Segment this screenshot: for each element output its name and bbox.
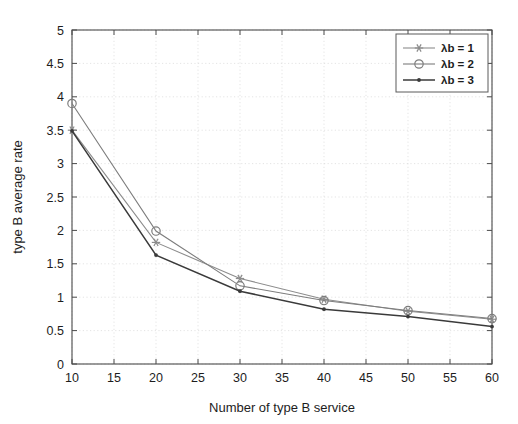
- y-tick-label: 1.5: [47, 257, 64, 271]
- y-tick-label: 1: [57, 291, 64, 305]
- marker-dot: [70, 129, 74, 133]
- x-tick-label: 60: [485, 371, 499, 385]
- legend: λb = 1λb = 2λb = 3: [396, 34, 488, 92]
- y-tick-label: 4.5: [47, 57, 64, 71]
- legend-item-label: λb = 3: [441, 74, 474, 86]
- marker-dot: [154, 253, 158, 257]
- y-tick-label: 2.5: [47, 191, 64, 205]
- marker-dot: [322, 307, 326, 311]
- y-axis-title: type B average rate: [10, 140, 25, 253]
- y-tick-label: 4: [57, 90, 64, 104]
- x-tick-label: 15: [107, 371, 121, 385]
- y-tick-label: 2: [57, 224, 64, 238]
- legend-item-label: λb = 1: [441, 42, 475, 54]
- marker-dot: [406, 315, 410, 319]
- y-tick-label: 0: [57, 358, 64, 372]
- x-tick-label: 35: [275, 371, 289, 385]
- chart-canvas: 1015202530354045505560 00.511.522.533.54…: [0, 0, 518, 424]
- x-tick-label: 50: [401, 371, 415, 385]
- x-tick-label: 30: [233, 371, 247, 385]
- x-tick-label: 40: [317, 371, 331, 385]
- x-tick-label: 55: [443, 371, 457, 385]
- x-tick-label: 45: [359, 371, 373, 385]
- y-tick-label: 3.5: [47, 124, 64, 138]
- x-tick-label: 20: [149, 371, 163, 385]
- y-tick-label: 3: [57, 157, 64, 171]
- legend-item-label: λb = 2: [441, 58, 474, 70]
- x-tick-label: 10: [65, 371, 79, 385]
- x-tick-label: 25: [191, 371, 205, 385]
- marker-dot: [417, 78, 421, 82]
- x-axis-title: Number of type B service: [209, 400, 355, 415]
- marker-dot: [238, 289, 242, 293]
- y-tick-label: 5: [57, 24, 64, 38]
- chart-figure: 1015202530354045505560 00.511.522.533.54…: [0, 0, 518, 424]
- marker-dot: [490, 325, 494, 329]
- y-tick-label: 0.5: [47, 324, 64, 338]
